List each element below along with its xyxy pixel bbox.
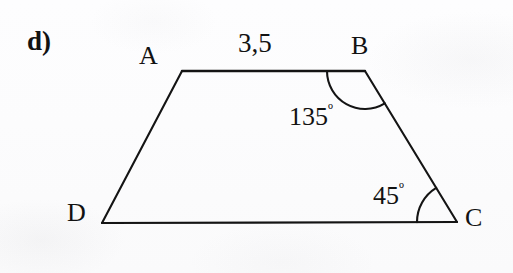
angle-value-c: 45 <box>373 181 399 210</box>
angle-arc-c <box>417 188 436 222</box>
vertex-label-a: A <box>139 43 158 69</box>
angle-value-b: 135 <box>289 102 328 131</box>
item-marker: d) <box>27 28 51 55</box>
side-length-label-ab: 3,5 <box>238 30 272 57</box>
vertex-label-c: C <box>465 205 482 231</box>
geometry-figure: d) A B C D 3,5 135º 45º <box>0 0 513 273</box>
side-cd <box>102 222 457 223</box>
side-da <box>102 71 182 223</box>
angle-label-b: 135º <box>289 104 333 130</box>
degree-symbol-b: º <box>328 101 333 118</box>
vertex-label-b: B <box>351 33 368 59</box>
angle-label-c: 45º <box>373 183 404 209</box>
vertex-label-d: D <box>67 200 86 226</box>
degree-symbol-c: º <box>399 180 404 197</box>
